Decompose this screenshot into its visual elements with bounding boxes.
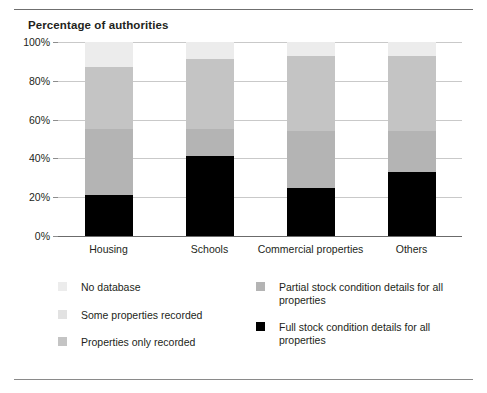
legend-item[interactable]: Full stock condition details for all pro… [256, 321, 470, 346]
legend-item[interactable]: No database [58, 281, 258, 294]
legend-swatch-icon [58, 310, 67, 319]
y-tickmark-80 [53, 81, 58, 82]
bar-housing: Housing [85, 42, 133, 236]
legend-item[interactable]: Properties only recorded [58, 336, 258, 349]
legend-item-label: No database [81, 281, 141, 294]
bar-segment [85, 42, 133, 67]
bar-segment [186, 59, 234, 129]
bar-segment [186, 156, 234, 236]
bar-segment [287, 56, 335, 132]
gridline-0 [58, 236, 462, 237]
y-axis-label-40: 40% [29, 152, 50, 164]
bar-segment [388, 131, 436, 172]
chart-plot-area: 0%20%40%60%80%100%HousingSchoolsCommerci… [58, 42, 462, 236]
y-tickmark-100 [53, 42, 58, 43]
bottom-divider [14, 379, 473, 380]
bar-segment [186, 129, 234, 156]
y-tickmark-40 [53, 158, 58, 159]
y-axis-label-80: 80% [29, 75, 50, 87]
bar-segment [388, 172, 436, 236]
legend-swatch-icon [256, 282, 265, 291]
legend-swatch-icon [256, 322, 265, 331]
legend-item-label: Some properties recorded [81, 309, 202, 322]
bar-schools: Schools [186, 42, 234, 236]
bar-segment [388, 56, 436, 132]
legend-column-right: Partial stock condition details for all … [256, 281, 470, 361]
y-tickmark-0 [53, 236, 58, 237]
bar-segment [287, 42, 335, 56]
y-axis-label-100: 100% [23, 36, 50, 48]
y-axis-label-20: 20% [29, 191, 50, 203]
bar-segment [85, 67, 133, 129]
bar-segment [85, 195, 133, 236]
legend-swatch-icon [58, 337, 67, 346]
bar-segment [388, 42, 436, 56]
y-tickmark-60 [53, 120, 58, 121]
bar-others: Others [388, 42, 436, 236]
page-title: Percentage of authorities [28, 19, 169, 31]
legend-swatch-icon [58, 282, 67, 291]
bar-commercial-properties: Commercial properties [287, 42, 335, 236]
legend-item-label: Properties only recorded [81, 336, 195, 349]
bar-segment [287, 131, 335, 187]
legend-item[interactable]: Some properties recorded [58, 309, 258, 322]
bar-segment [186, 42, 234, 59]
y-tickmark-20 [53, 197, 58, 198]
y-axis-label-0: 0% [35, 230, 50, 242]
bar-segment [85, 129, 133, 195]
bar-segment [287, 188, 335, 237]
legend-item[interactable]: Partial stock condition details for all … [256, 281, 470, 306]
legend-item-label: Full stock condition details for all pro… [279, 321, 470, 346]
legend-column-left: No databaseSome properties recordedPrope… [58, 281, 258, 364]
x-axis-label-others: Others [352, 243, 472, 256]
y-axis-label-60: 60% [29, 114, 50, 126]
top-divider [14, 9, 473, 10]
legend-item-label: Partial stock condition details for all … [279, 281, 470, 306]
